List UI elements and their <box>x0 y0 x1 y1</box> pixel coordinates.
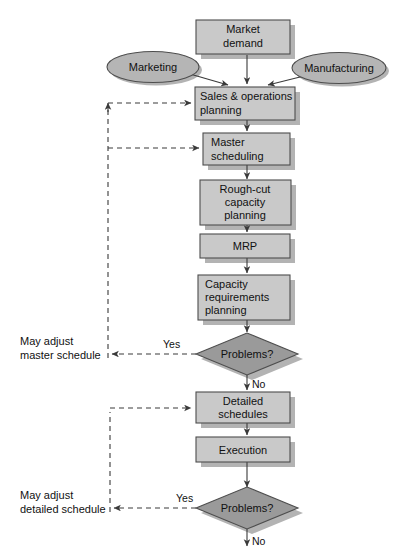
side-label-adjust-master-schedule: May adjust master schedule <box>20 335 101 361</box>
node-mrp[interactable]: MRP <box>200 234 290 258</box>
node-capacity-req-label-3: planning <box>205 304 247 316</box>
adjust-detailed-line-1: May adjust <box>20 489 73 501</box>
node-market-demand-label-2: demand <box>223 37 263 49</box>
node-rough-cut-capacity-planning[interactable]: Rough-cut capacity planning <box>200 180 291 225</box>
edge-marketing-to-sales-ops <box>190 74 228 85</box>
node-execution-label: Execution <box>219 444 267 456</box>
node-marketing[interactable]: Marketing <box>107 52 199 83</box>
edge-label-yes-2: Yes <box>176 492 193 504</box>
flowchart-canvas: Market demand Marketing Manufacturing Sa… <box>0 0 394 558</box>
node-detailed-schedules-label-1: Detailed <box>223 395 263 407</box>
node-rough-cut-label-1: Rough-cut <box>220 183 271 195</box>
side-label-adjust-detailed-schedule: May adjust detailed schedule <box>20 489 106 515</box>
node-capacity-requirements-planning[interactable]: Capacity requirements planning <box>198 275 290 320</box>
node-sales-ops-label-2: planning <box>200 104 242 116</box>
node-master-scheduling-label-2: scheduling <box>211 150 264 162</box>
node-master-scheduling[interactable]: Master scheduling <box>203 133 290 165</box>
node-problems-decision-1[interactable]: Problems? <box>196 333 298 375</box>
node-market-demand[interactable]: Market demand <box>196 20 290 54</box>
node-problems-2-label: Problems? <box>221 502 274 514</box>
node-problems-1-label: Problems? <box>221 348 274 360</box>
adjust-master-line-1: May adjust <box>20 335 73 347</box>
node-capacity-req-label-2: requirements <box>205 291 270 303</box>
node-detailed-schedules-label-2: schedules <box>218 408 268 420</box>
node-rough-cut-label-2: capacity <box>225 196 266 208</box>
node-problems-decision-2[interactable]: Problems? <box>196 487 298 529</box>
feedback-loop-master-schedule <box>108 103 199 358</box>
adjust-detailed-line-2: detailed schedule <box>20 503 106 515</box>
node-detailed-schedules[interactable]: Detailed schedules <box>196 392 290 423</box>
node-manufacturing[interactable]: Manufacturing <box>292 53 386 84</box>
node-sales-ops-label-1: Sales & operations <box>200 90 293 102</box>
node-marketing-label: Marketing <box>129 61 177 73</box>
node-sales-operations-planning[interactable]: Sales & operations planning <box>195 87 295 120</box>
node-market-demand-label-1: Market <box>226 23 260 35</box>
node-capacity-req-label-1: Capacity <box>205 278 248 290</box>
node-execution[interactable]: Execution <box>196 437 290 462</box>
node-master-scheduling-label-1: Master <box>211 136 245 148</box>
edge-label-no-1: No <box>252 378 266 390</box>
flowchart-root: Market demand Marketing Manufacturing Sa… <box>0 0 394 558</box>
node-mrp-label: MRP <box>233 240 257 252</box>
edge-label-yes-1: Yes <box>163 338 180 350</box>
node-rough-cut-label-3: planning <box>224 209 266 221</box>
node-manufacturing-label: Manufacturing <box>304 62 374 74</box>
adjust-master-line-2: master schedule <box>20 349 101 361</box>
edge-label-no-2: No <box>252 535 266 547</box>
